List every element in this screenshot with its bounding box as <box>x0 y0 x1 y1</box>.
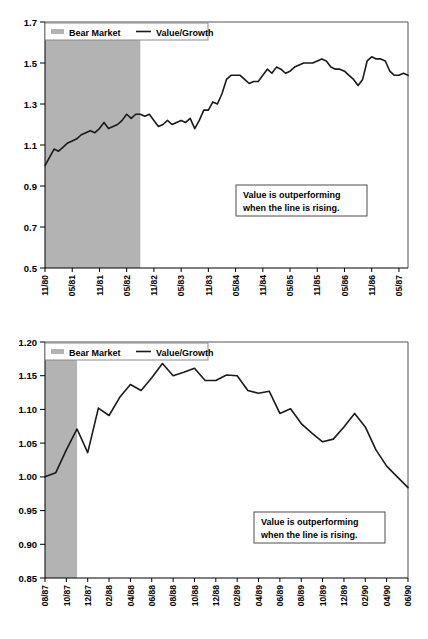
legend: Bear Market Value/Growth <box>45 23 214 40</box>
legend-label-bear-market: Bear Market <box>69 28 121 38</box>
x-tick-label: 05/82 <box>122 275 132 297</box>
y-tick-label: 1.3 <box>24 99 37 110</box>
x-tick-label: 08/87 <box>40 585 50 607</box>
y-tick-label: 1.00 <box>19 471 38 482</box>
y-tick-label: 0.90 <box>19 539 38 550</box>
annotation-callout: Value is outperforming when the line is … <box>254 512 385 543</box>
bear-market-shading <box>45 360 77 578</box>
annotation-line-2: when the line is rising. <box>260 530 358 540</box>
y-tick-label: 0.95 <box>19 505 38 516</box>
x-tick-label: 06/90 <box>403 585 413 607</box>
chart-1-container: 0.5 0.7 0.9 1.1 1.3 1.5 1.7 11/8005/8111… <box>0 0 428 320</box>
x-tick-label: 12/88 <box>211 585 221 607</box>
y-tick-label: 1.20 <box>19 337 38 348</box>
x-tick-label: 10/88 <box>190 585 200 607</box>
chart-1-svg: 0.5 0.7 0.9 1.1 1.3 1.5 1.7 11/8005/8111… <box>0 0 428 320</box>
x-tick-label: 04/88 <box>126 585 136 607</box>
x-tick-label: 05/81 <box>67 275 77 297</box>
x-tick-label: 11/86 <box>367 275 377 296</box>
x-tick-label: 04/89 <box>254 585 264 607</box>
annotation-line-1: Value is outperforming <box>243 190 341 200</box>
x-tick-label: 11/80 <box>40 275 50 296</box>
x-axis-group: 08/8710/8712/8702/8804/8806/8808/8810/88… <box>40 578 413 606</box>
legend-label-bear-market: Bear Market <box>69 348 121 358</box>
x-tick-label: 04/90 <box>382 585 392 607</box>
x-tick-label: 11/81 <box>95 275 105 296</box>
y-tick-label: 1.7 <box>24 17 37 28</box>
annotation-line-1: Value is outperforming <box>261 517 359 527</box>
chart-2-svg: 0.85 0.90 0.95 1.00 1.05 1.10 1.15 1.20 … <box>0 320 428 639</box>
x-tick-label: 02/88 <box>104 585 114 607</box>
y-tick-label: 0.85 <box>19 573 38 584</box>
y-axis-labels: 0.85 0.90 0.95 1.00 1.05 1.10 1.15 1.20 <box>19 337 38 584</box>
y-tick-label: 0.9 <box>24 181 37 192</box>
y-axis-labels: 0.5 0.7 0.9 1.1 1.3 1.5 1.7 <box>24 17 38 274</box>
x-tick-label: 06/88 <box>147 585 157 607</box>
x-tick-label: 12/89 <box>339 585 349 607</box>
x-tick-label: 05/85 <box>285 275 295 297</box>
x-tick-label: 11/84 <box>258 275 268 296</box>
x-tick-label: 06/89 <box>275 585 285 607</box>
y-tick-label: 1.5 <box>24 58 38 69</box>
legend: Bear Market Value/Growth <box>45 343 214 360</box>
value-growth-line <box>45 364 408 488</box>
x-tick-label: 11/83 <box>204 275 214 296</box>
chart-2-container: 0.85 0.90 0.95 1.00 1.05 1.10 1.15 1.20 … <box>0 320 428 639</box>
x-tick-label: 05/87 <box>394 275 404 297</box>
x-tick-label: 05/84 <box>231 275 241 297</box>
x-tick-label: 08/88 <box>168 585 178 607</box>
annotation-line-2: when the line is rising. <box>242 203 340 213</box>
annotation-callout: Value is outperforming when the line is … <box>236 185 367 216</box>
x-tick-label: 02/89 <box>232 585 242 607</box>
y-tick-label: 1.10 <box>19 404 38 415</box>
x-tick-label: 11/82 <box>149 275 159 296</box>
x-tick-label: 05/83 <box>176 275 186 297</box>
x-tick-label: 05/86 <box>340 275 350 297</box>
x-tick-label: 11/85 <box>312 275 322 296</box>
x-tick-label: 08/89 <box>296 585 306 607</box>
y-tick-label: 1.1 <box>24 140 38 151</box>
y-tick-label: 1.15 <box>19 370 38 381</box>
x-tick-label: 10/89 <box>318 585 328 607</box>
y-tick-label: 1.05 <box>19 438 38 449</box>
x-tick-label: 10/87 <box>62 585 72 607</box>
y-tick-label: 0.5 <box>24 263 38 274</box>
y-tick-marks <box>40 22 45 268</box>
figure-page: 0.5 0.7 0.9 1.1 1.3 1.5 1.7 11/8005/8111… <box>0 0 428 639</box>
bear-market-shading <box>45 40 140 268</box>
y-tick-marks <box>40 342 45 578</box>
bear-market-swatch-icon <box>51 349 64 354</box>
legend-label-value-growth: Value/Growth <box>156 28 214 38</box>
x-tick-label: 12/87 <box>83 585 93 607</box>
x-tick-label: 02/90 <box>360 585 370 607</box>
bear-market-swatch-icon <box>51 29 64 34</box>
x-axis-group: 11/8005/8111/8105/8211/8205/8311/8305/84… <box>40 268 404 296</box>
legend-label-value-growth: Value/Growth <box>156 348 214 358</box>
y-tick-label: 0.7 <box>24 222 37 233</box>
